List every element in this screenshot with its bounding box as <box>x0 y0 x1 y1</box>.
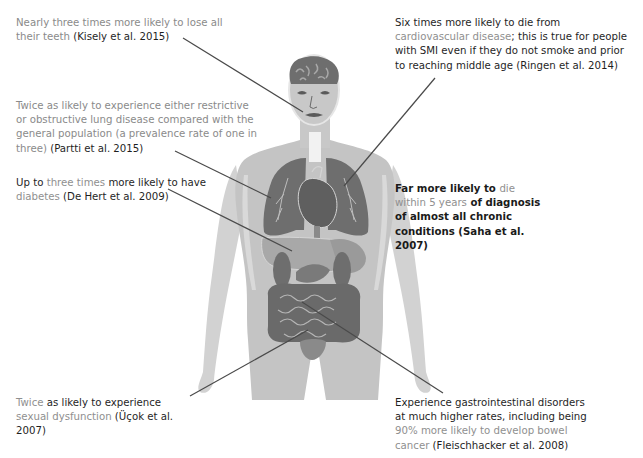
callout-sexual-dysfunction: Twice as likely to experience sexual dys… <box>16 396 191 439</box>
callout-chronic-conditions: Far more likely to die within 5 years of… <box>395 182 545 253</box>
cardio-text-1: Six times more likely to die from <box>395 17 560 28</box>
lung-citation: (Partti et al. 2015) <box>50 143 143 154</box>
gi-text: Experience gastrointestinal disorders at… <box>395 397 587 422</box>
diabetes-accent-1: three times <box>47 177 106 188</box>
gi-citation: (Fleischhacker et al. 2008) <box>429 440 568 451</box>
cardio-citation: (Ringen et al. 2014) <box>516 60 618 71</box>
diabetes-text-2: more likely to have <box>105 177 206 188</box>
callout-teeth: Nearly three times more likely to lose a… <box>16 16 246 44</box>
diabetes-citation: (De Hert et al. 2009) <box>60 191 169 202</box>
callout-lung: Twice as likely to experience either res… <box>16 99 261 156</box>
left-kidney <box>273 252 291 288</box>
diabetes-accent-2: diabetes <box>16 191 60 202</box>
sexual-text: as likely to experience <box>44 397 162 408</box>
callout-cardiovascular: Six times more likely to die from cardio… <box>395 16 630 73</box>
trachea <box>309 132 321 162</box>
chronic-text-1: Far more likely to <box>395 183 499 194</box>
callout-gastrointestinal: Experience gastrointestinal disorders at… <box>395 396 595 453</box>
cardio-accent: cardiovascular disease <box>395 31 511 42</box>
sexual-accent-1: Twice <box>16 397 44 408</box>
callout-diabetes: Up to three times more likely to have di… <box>16 176 216 204</box>
diabetes-text-1: Up to <box>16 177 47 188</box>
right-kidney <box>333 252 351 288</box>
sexual-accent-2: sexual dysfunction <box>16 411 112 422</box>
teeth-citation: (Kisely et al. 2015) <box>73 31 169 42</box>
